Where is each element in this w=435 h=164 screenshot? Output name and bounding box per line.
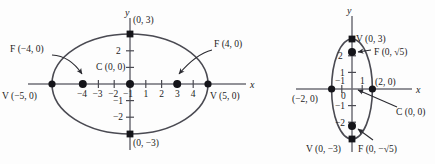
ellipse-figure-pair: x y V (−5, 0) V (5, 0) F (−4, 0) F (4, 0… (0, 0, 435, 164)
left-covertex-top-label: (0, 3) (133, 15, 154, 26)
right-ytick-2: 2 (338, 51, 343, 61)
left-xtick-3: 3 (175, 89, 180, 99)
right-focus-bottom-point (348, 122, 356, 130)
left-vertex-left-point (48, 80, 55, 87)
right-center-label: C (0, 0) (396, 107, 425, 118)
left-focus-right-point (173, 80, 181, 88)
right-vertex-top-label: V (0, 3) (356, 34, 386, 45)
right-ytick-m2: −2 (335, 118, 345, 128)
left-covertex-bottom-point (127, 131, 134, 138)
right-vertex-bottom-label: V (0, −3) (306, 144, 341, 155)
right-vertex-bottom-point (349, 136, 356, 143)
left-xtick-m3: −3 (92, 89, 102, 99)
left-focus-left-label: F (−4, 0) (10, 44, 44, 55)
left-focus-right-arrow (179, 50, 212, 74)
left-ellipse-diagram: x y V (−5, 0) V (5, 0) F (−4, 0) F (4, 0… (2, 7, 255, 150)
left-vertex-right-label: V (5, 0) (210, 91, 240, 102)
right-xtick-1: 1 (360, 76, 365, 86)
left-focus-left-arrow (52, 55, 82, 74)
left-center-label: C (0, 0) (96, 62, 125, 73)
right-x-axis-label: x (415, 84, 421, 95)
left-y-axis-label: y (124, 7, 130, 18)
left-x-axis-label: x (249, 79, 255, 90)
right-ytick-0: 0 (341, 91, 346, 101)
right-ellipse-diagram: x y V (0, 3) V (0, −3) F (0, √5) F (0, −… (292, 5, 425, 155)
left-ytick-2: 2 (116, 46, 121, 56)
left-vertex-right-point (204, 80, 211, 87)
left-ytick-m2: −2 (113, 112, 123, 122)
right-covertex-left-point (328, 85, 335, 92)
right-focus-top-label: F (0, √5) (374, 47, 407, 58)
right-ytick-1: 1 (340, 68, 345, 78)
left-center-point (126, 80, 134, 88)
left-focus-right-label: F (4, 0) (214, 39, 242, 50)
left-xtick-1: 1 (143, 89, 148, 99)
right-focus-top-point (348, 48, 356, 56)
right-covertex-left-label: (−2, 0) (292, 94, 318, 105)
right-covertex-right-label: (2, 0) (375, 77, 396, 88)
ellipse-diagrams-svg: x y V (−5, 0) V (5, 0) F (−4, 0) F (4, 0… (0, 0, 435, 164)
left-ytick-m1: −1 (113, 96, 123, 106)
left-vertex-left-label: V (−5, 0) (2, 91, 37, 102)
left-covertex-top-point (127, 31, 134, 38)
right-ytick-m1: −1 (335, 101, 345, 111)
right-y-axis-label: y (346, 5, 352, 16)
right-focus-bottom-label: F (0, −√5) (358, 144, 397, 155)
right-vertex-top-point (349, 36, 356, 43)
left-covertex-bottom-label: (0, −3) (133, 138, 159, 149)
left-xtick-4: 4 (191, 89, 196, 99)
left-focus-left-point (79, 80, 87, 88)
right-center-arrow (358, 90, 397, 107)
left-xtick-m1: −1 (123, 89, 133, 99)
left-xtick-2: 2 (159, 89, 164, 99)
left-xtick-m4: −4 (77, 89, 87, 99)
